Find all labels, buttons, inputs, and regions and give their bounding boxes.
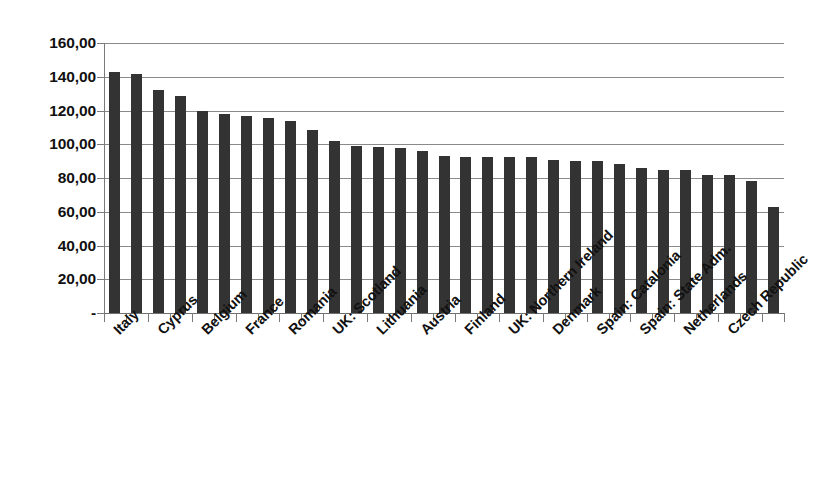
- y-axis-tick-mark: [97, 246, 105, 247]
- x-axis-tick-label: Austria: [418, 292, 463, 337]
- x-axis-tick-label: France: [243, 294, 286, 337]
- y-axis-tick-mark: [97, 313, 105, 314]
- y-axis-tick-mark: [97, 43, 105, 44]
- y-axis-tick-mark: [97, 212, 105, 213]
- x-axis-tick-label: Belgium: [199, 287, 249, 337]
- x-axis-tick-label: Czech Republic: [725, 252, 811, 338]
- y-axis-tick-mark: [97, 111, 105, 112]
- x-axis-tick-label: Italy: [111, 307, 141, 337]
- y-axis-tick-mark: [97, 144, 105, 145]
- bar-chart: 160,00140,00120,00100,0080,0060,0040,002…: [0, 0, 816, 495]
- y-axis-tick-mark: [97, 279, 105, 280]
- y-axis-tick-mark: [97, 178, 105, 179]
- x-axis-tick-label: Cyprus: [155, 292, 200, 337]
- x-axis-tick-label: Finland: [462, 291, 508, 337]
- y-axis-tick-mark: [97, 77, 105, 78]
- x-axis-tick-labels: ItalyCyprusBelgiumFranceRomaniaUK: Scotl…: [0, 0, 816, 495]
